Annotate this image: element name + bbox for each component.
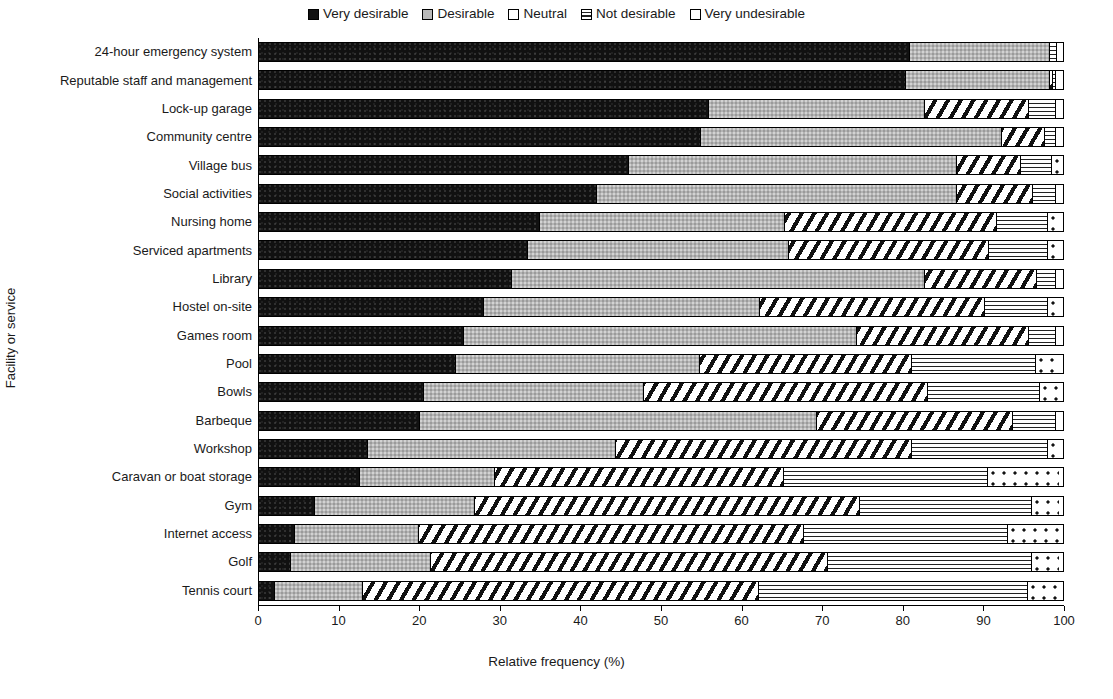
stacked-bar[interactable] — [258, 99, 1064, 119]
bar-segment-very-undesirable[interactable] — [1056, 43, 1060, 61]
bar-segment-very-undesirable[interactable] — [1047, 241, 1059, 259]
bar-segment-very-undesirable[interactable] — [1007, 525, 1059, 543]
stacked-bar[interactable] — [258, 439, 1064, 459]
bar-segment-desirable[interactable] — [463, 327, 857, 345]
bar-segment-desirable[interactable] — [527, 241, 788, 259]
bar-segment-not-desirable[interactable] — [1020, 156, 1052, 174]
bar-segment-not-desirable[interactable] — [1032, 185, 1056, 203]
bar-segment-not-desirable[interactable] — [859, 497, 1032, 515]
bar-segment-very-desirable[interactable] — [259, 383, 424, 401]
bar-segment-neutral[interactable] — [924, 100, 1029, 118]
stacked-bar[interactable] — [258, 70, 1064, 90]
bar-segment-very-desirable[interactable] — [259, 43, 910, 61]
bar-segment-neutral[interactable] — [474, 497, 860, 515]
bar-segment-desirable[interactable] — [455, 355, 700, 373]
bar-segment-neutral[interactable] — [1001, 128, 1045, 146]
stacked-bar[interactable] — [258, 411, 1064, 431]
bar-segment-desirable[interactable] — [294, 525, 419, 543]
bar-segment-neutral[interactable] — [956, 156, 1020, 174]
stacked-bar[interactable] — [258, 524, 1064, 544]
bar-segment-very-undesirable[interactable] — [1035, 355, 1059, 373]
bar-segment-very-undesirable[interactable] — [1051, 156, 1059, 174]
bar-segment-very-desirable[interactable] — [259, 213, 540, 231]
bar-segment-desirable[interactable] — [367, 440, 616, 458]
stacked-bar[interactable] — [258, 496, 1064, 516]
legend-item-desirable[interactable]: Desirable — [422, 6, 494, 22]
bar-segment-not-desirable[interactable] — [827, 553, 1032, 571]
bar-segment-very-undesirable[interactable] — [1055, 327, 1059, 345]
stacked-bar[interactable] — [258, 467, 1064, 487]
bar-segment-very-desirable[interactable] — [259, 582, 275, 600]
bar-segment-very-undesirable[interactable] — [1031, 553, 1059, 571]
bar-segment-desirable[interactable] — [539, 213, 784, 231]
bar-segment-very-undesirable[interactable] — [1055, 270, 1059, 288]
bar-segment-very-undesirable[interactable] — [1055, 71, 1059, 89]
bar-segment-not-desirable[interactable] — [758, 582, 1027, 600]
bar-segment-very-desirable[interactable] — [259, 440, 368, 458]
stacked-bar[interactable] — [258, 127, 1064, 147]
bar-segment-neutral[interactable] — [699, 355, 912, 373]
bar-segment-very-desirable[interactable] — [259, 497, 315, 515]
bar-segment-neutral[interactable] — [924, 270, 1037, 288]
stacked-bar[interactable] — [258, 184, 1064, 204]
bar-segment-desirable[interactable] — [419, 412, 817, 430]
bar-segment-very-desirable[interactable] — [259, 71, 906, 89]
bar-segment-neutral[interactable] — [788, 241, 989, 259]
bar-segment-not-desirable[interactable] — [783, 468, 988, 486]
bar-segment-neutral[interactable] — [956, 185, 1032, 203]
bar-segment-not-desirable[interactable] — [927, 383, 1040, 401]
bar-segment-not-desirable[interactable] — [911, 355, 1036, 373]
bar-segment-neutral[interactable] — [362, 582, 760, 600]
bar-segment-desirable[interactable] — [628, 156, 958, 174]
bar-segment-very-desirable[interactable] — [259, 412, 420, 430]
bar-segment-not-desirable[interactable] — [1036, 270, 1056, 288]
bar-segment-very-desirable[interactable] — [259, 355, 456, 373]
bar-segment-very-undesirable[interactable] — [987, 468, 1059, 486]
legend-item-neutral[interactable]: Neutral — [508, 6, 567, 22]
bar-segment-not-desirable[interactable] — [1012, 412, 1056, 430]
bar-segment-very-undesirable[interactable] — [1027, 582, 1059, 600]
bar-segment-very-undesirable[interactable] — [1039, 383, 1059, 401]
bar-segment-neutral[interactable] — [494, 468, 783, 486]
legend-item-not-desirable[interactable]: Not desirable — [581, 6, 676, 22]
stacked-bar[interactable] — [258, 297, 1064, 317]
stacked-bar[interactable] — [258, 155, 1064, 175]
bar-segment-desirable[interactable] — [274, 582, 362, 600]
bar-segment-very-desirable[interactable] — [259, 270, 512, 288]
bar-segment-not-desirable[interactable] — [996, 213, 1048, 231]
bar-segment-desirable[interactable] — [700, 128, 1002, 146]
bar-segment-desirable[interactable] — [511, 270, 925, 288]
bar-segment-very-desirable[interactable] — [259, 156, 629, 174]
bar-segment-very-desirable[interactable] — [259, 100, 709, 118]
bar-segment-desirable[interactable] — [909, 43, 1050, 61]
bar-segment-not-desirable[interactable] — [911, 440, 1048, 458]
bar-segment-very-desirable[interactable] — [259, 525, 295, 543]
bar-segment-neutral[interactable] — [430, 553, 828, 571]
stacked-bar[interactable] — [258, 326, 1064, 346]
bar-segment-very-undesirable[interactable] — [1055, 128, 1059, 146]
stacked-bar[interactable] — [258, 240, 1064, 260]
bar-segment-very-desirable[interactable] — [259, 128, 701, 146]
stacked-bar[interactable] — [258, 382, 1064, 402]
bar-segment-desirable[interactable] — [596, 185, 958, 203]
bar-segment-desirable[interactable] — [905, 71, 1050, 89]
bar-segment-not-desirable[interactable] — [803, 525, 1008, 543]
bar-segment-not-desirable[interactable] — [984, 298, 1048, 316]
bar-segment-neutral[interactable] — [643, 383, 928, 401]
bar-segment-very-desirable[interactable] — [259, 327, 464, 345]
bar-segment-not-desirable[interactable] — [1028, 100, 1056, 118]
bar-segment-very-desirable[interactable] — [259, 468, 360, 486]
bar-segment-very-undesirable[interactable] — [1047, 440, 1059, 458]
bar-segment-neutral[interactable] — [784, 213, 997, 231]
bar-segment-very-desirable[interactable] — [259, 298, 484, 316]
stacked-bar[interactable] — [258, 354, 1064, 374]
bar-segment-desirable[interactable] — [708, 100, 925, 118]
stacked-bar[interactable] — [258, 212, 1064, 232]
bar-segment-very-undesirable[interactable] — [1047, 298, 1059, 316]
bar-segment-very-desirable[interactable] — [259, 185, 597, 203]
bar-segment-very-undesirable[interactable] — [1055, 185, 1059, 203]
bar-segment-desirable[interactable] — [314, 497, 475, 515]
bar-segment-very-undesirable[interactable] — [1055, 412, 1059, 430]
bar-segment-neutral[interactable] — [418, 525, 804, 543]
bar-segment-desirable[interactable] — [423, 383, 644, 401]
